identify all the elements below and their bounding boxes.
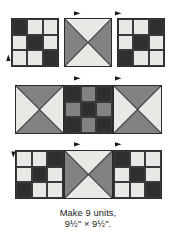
patch-cell	[130, 151, 146, 167]
nine-patch-grid	[12, 19, 58, 66]
pressing-arrow-side-up	[5, 54, 12, 76]
patch-cell	[96, 117, 112, 133]
hourglass-shape	[114, 86, 161, 133]
patch-cell	[130, 182, 146, 198]
caption-line-1: Make 9 units,	[0, 208, 176, 219]
patch-cell	[145, 167, 161, 183]
patch-cell	[118, 50, 133, 66]
patch-cell	[133, 35, 148, 51]
caption-line-2: 9½" × 9½".	[0, 219, 176, 230]
nine-patch-bottom-right	[113, 150, 162, 199]
nine-patch-top-right	[117, 18, 165, 67]
patch-cell	[47, 151, 63, 167]
patch-cell	[114, 151, 130, 167]
patch-cell	[27, 35, 42, 51]
patch-cell	[27, 19, 42, 35]
patch-cell	[65, 117, 81, 133]
patch-cell	[12, 50, 27, 66]
patch-cell	[118, 35, 133, 51]
pressing-arrow-bottom-left	[59, 140, 81, 147]
hourglass-shape	[65, 151, 112, 198]
hourglass-shape	[16, 86, 63, 133]
hourglass-middle-right	[113, 85, 162, 134]
patch-cell	[81, 117, 97, 133]
patch-cell	[47, 182, 63, 198]
patch-cell	[118, 19, 133, 35]
figure-caption: Make 9 units, 9½" × 9½".	[0, 208, 176, 231]
nine-patch-middle-center	[64, 85, 113, 134]
patch-cell	[43, 50, 58, 66]
patch-cell	[133, 19, 148, 35]
patch-cell	[114, 182, 130, 198]
patch-cell	[65, 102, 81, 118]
patch-cell	[12, 19, 27, 35]
quilt-assembly-diagram: Make 9 units, 9½" × 9½".	[0, 0, 176, 232]
nine-patch-grid	[16, 151, 63, 198]
pressing-arrow-middle-right	[100, 74, 122, 81]
hourglass-middle-left	[15, 85, 64, 134]
patch-cell	[32, 182, 48, 198]
patch-cell	[96, 86, 112, 102]
patch-cell	[12, 35, 27, 51]
pressing-arrow-bottom-right	[100, 140, 122, 147]
patch-cell	[145, 182, 161, 198]
patch-cell	[81, 102, 97, 118]
hourglass-shape	[65, 19, 111, 66]
patch-cell	[81, 86, 97, 102]
patch-cell	[16, 151, 32, 167]
patch-cell	[32, 151, 48, 167]
patch-cell	[43, 35, 58, 51]
hourglass-bottom-center	[64, 150, 113, 199]
patch-cell	[145, 151, 161, 167]
patch-cell	[114, 167, 130, 183]
nine-patch-bottom-left	[15, 150, 64, 199]
patch-cell	[16, 167, 32, 183]
patch-cell	[130, 167, 146, 183]
patch-cell	[16, 182, 32, 198]
nine-patch-grid	[118, 19, 164, 66]
pressing-arrow-top-left	[59, 9, 81, 16]
nine-patch-grid	[114, 151, 161, 198]
pressing-arrow-middle-left	[59, 74, 81, 81]
patch-cell	[133, 50, 148, 66]
patch-cell	[32, 167, 48, 183]
patch-cell	[65, 86, 81, 102]
patch-cell	[47, 167, 63, 183]
nine-patch-grid	[65, 86, 112, 133]
hourglass-top-center	[64, 18, 112, 67]
patch-cell	[27, 50, 42, 66]
patch-cell	[149, 35, 164, 51]
patch-cell	[149, 50, 164, 66]
nine-patch-top-left	[11, 18, 59, 67]
pressing-arrow-top-right	[100, 9, 122, 16]
patch-cell	[96, 102, 112, 118]
patch-cell	[43, 19, 58, 35]
patch-cell	[149, 19, 164, 35]
